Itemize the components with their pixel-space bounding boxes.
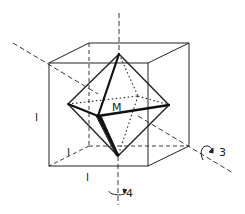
center-label: M bbox=[112, 101, 122, 114]
edge-length-depth-label: l bbox=[67, 146, 70, 159]
threefold-axis-label: 3 bbox=[219, 146, 226, 159]
edge-length-left-label: l bbox=[35, 111, 38, 124]
edge-length-bottom-label: l bbox=[86, 171, 89, 184]
fourfold-axis-label: 4 bbox=[126, 187, 133, 200]
symmetry-axes bbox=[13, 13, 233, 205]
octahedron-cube-diagram: M l l l 3 4 bbox=[0, 0, 245, 214]
